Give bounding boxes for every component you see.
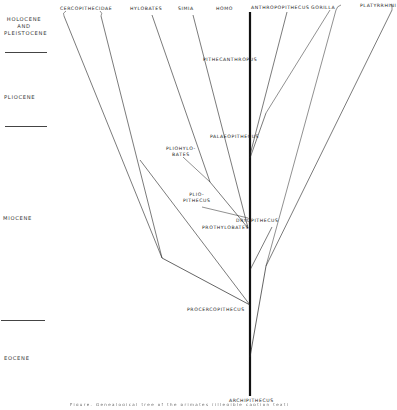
epoch-eocene: EOCENE <box>4 355 36 362</box>
gorilla-branch <box>266 10 330 113</box>
cercopithecidae-stem <box>162 258 250 305</box>
pliopithecus-pointer <box>202 207 248 218</box>
platyrrhini-branch-right <box>266 10 392 266</box>
platyrrhini-branch-left <box>266 10 336 266</box>
epoch-line: PLIOCENE <box>4 94 36 101</box>
epoch-line: AND <box>4 23 44 30</box>
epoch-line: EOCENE <box>4 355 36 362</box>
taxon-cercopithecidae: CERCOPITHECIDAE <box>60 6 112 12</box>
platyrrhini-stem <box>250 266 266 357</box>
node-label-line: PITHECUS <box>183 198 211 204</box>
node-pithecanthropus: PITHECANTHROPUS <box>203 57 257 63</box>
epoch-divider <box>5 52 47 53</box>
node-procercopithecus: PROCERCOPITHECUS <box>187 307 245 313</box>
phylogenetic-tree <box>0 0 397 410</box>
taxon-platyrrhini: PLATYRRHINI <box>360 3 396 9</box>
taxon-gorilla: GORILLA <box>311 5 335 11</box>
dryopithecus-branch <box>250 227 272 270</box>
taxon-hylobates: HYLOBATES <box>130 6 162 12</box>
cercopithecidae-hook-right <box>100 11 102 16</box>
platyrrhini-hook <box>336 5 341 10</box>
node-pliopithecus: PLIO- PITHECUS <box>183 192 211 203</box>
figure-caption: Figure. Genealogical tree of the primate… <box>70 402 340 406</box>
cercopithecidae-stem-2 <box>140 160 250 305</box>
node-label-line: BATES <box>166 152 196 158</box>
cercopithecidae-branch-left <box>64 16 162 258</box>
node-pliohylobates: PLIOHYLO- BATES <box>166 146 196 157</box>
epoch-miocene: MIOCENE <box>3 215 35 222</box>
epoch-line: MIOCENE <box>3 215 35 222</box>
epoch-divider <box>5 126 47 127</box>
epoch-line: PLEISTOCENE <box>4 30 44 37</box>
epoch-holocene-pleistocene: HOLOCENE AND PLEISTOCENE <box>4 16 44 37</box>
taxon-homo: HOMO <box>216 6 233 12</box>
epoch-line: HOLOCENE <box>4 16 44 23</box>
epoch-divider <box>1 320 45 321</box>
node-dryopithecus: DRYOPITHECUS <box>236 218 279 224</box>
cercopithecidae-hook-left <box>63 11 66 16</box>
epoch-pliocene: PLIOCENE <box>4 94 36 101</box>
taxon-simia: SIMIA <box>178 6 194 12</box>
cercopithecidae-branch-right <box>101 16 162 258</box>
node-label-line: PLIOHYLO- <box>166 146 196 152</box>
node-prothylobates: PROTHYLOBATES <box>202 225 249 231</box>
taxon-anthropopithecus: ANTHROPOPITHECUS <box>251 5 309 11</box>
node-palaeopithecus: PALAEOPITHECUS <box>210 134 259 140</box>
